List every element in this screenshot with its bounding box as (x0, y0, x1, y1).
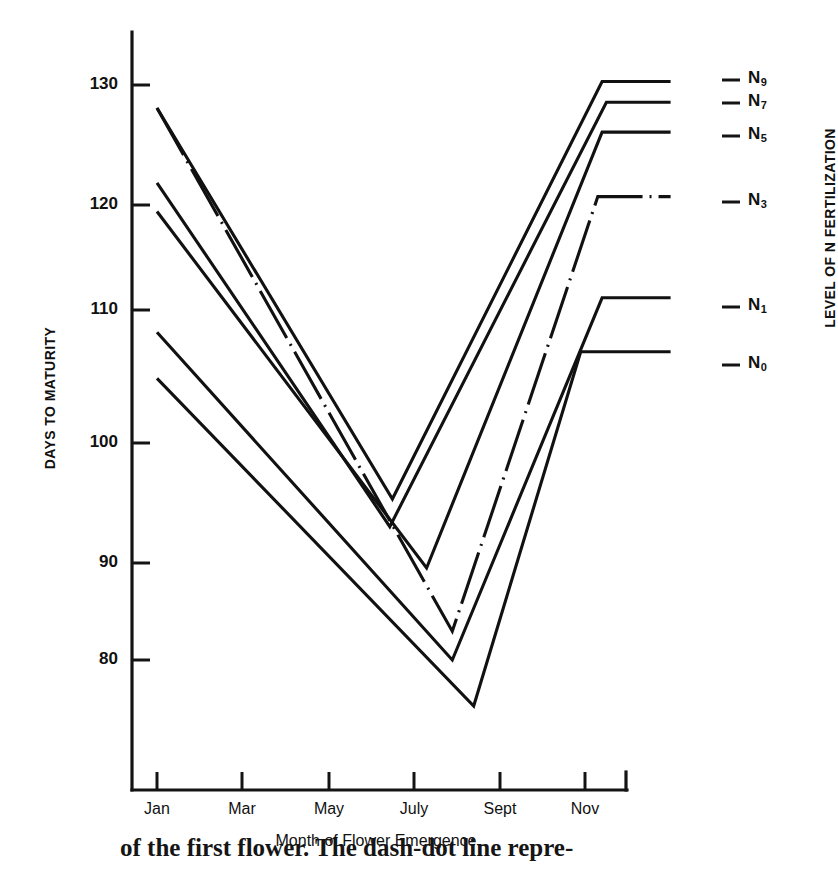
y-tick-label-130: 130 (58, 74, 118, 94)
series-label-n7-sub: 7 (761, 99, 767, 111)
series-label-n5: N5 (748, 124, 766, 144)
y-tick-label-110: 110 (58, 299, 118, 319)
series-label-n5-sub: 5 (761, 132, 767, 144)
series-label-n1: N1 (748, 295, 766, 315)
series-label-leaders (722, 80, 740, 365)
series-label-n0-base: N (748, 353, 760, 372)
series-label-n5-base: N (748, 124, 760, 143)
series-label-n3: N3 (748, 190, 766, 210)
series-label-n9-sub: 9 (761, 76, 767, 88)
series-line-n5 (157, 132, 671, 568)
y-tick-label-90: 90 (58, 552, 118, 572)
right-axis-title: LEVEL OF N FERTILIZATION (822, 98, 838, 358)
x-tick-label-nov: Nov (550, 800, 620, 818)
x-axis-ticks (157, 772, 585, 790)
series-line-n9 (157, 82, 671, 500)
x-tick-label-sept: Sept (465, 800, 535, 818)
series-label-n1-base: N (748, 295, 760, 314)
series-label-n7: N7 (748, 91, 766, 111)
series-label-n0-sub: 0 (761, 361, 767, 373)
y-tick-label-100: 100 (58, 432, 118, 452)
series-label-n1-sub: 1 (761, 303, 767, 315)
data-series-group (157, 82, 671, 707)
caption-text: of the first flower. The dash-dot line r… (120, 834, 573, 862)
y-tick-label-120: 120 (58, 194, 118, 214)
series-label-n0: N0 (748, 353, 766, 373)
x-tick-label-may: May (294, 800, 364, 818)
series-label-n9: N9 (748, 68, 766, 88)
series-label-n3-base: N (748, 190, 760, 209)
x-tick-label-mar: Mar (207, 800, 277, 818)
y-axis-title: DAYS TO MATURITY (42, 308, 58, 488)
series-line-n0 (157, 352, 671, 706)
series-label-n9-base: N (748, 68, 760, 87)
series-label-n7-base: N (748, 91, 760, 110)
y-axis-ticks (132, 85, 150, 660)
y-tick-label-80: 80 (58, 649, 118, 669)
caption-strip: of the first flower. The dash-dot line r… (0, 832, 835, 872)
series-label-n3-sub: 3 (761, 198, 767, 210)
x-tick-label-july: July (379, 800, 449, 818)
x-tick-label-jan: Jan (122, 800, 192, 818)
